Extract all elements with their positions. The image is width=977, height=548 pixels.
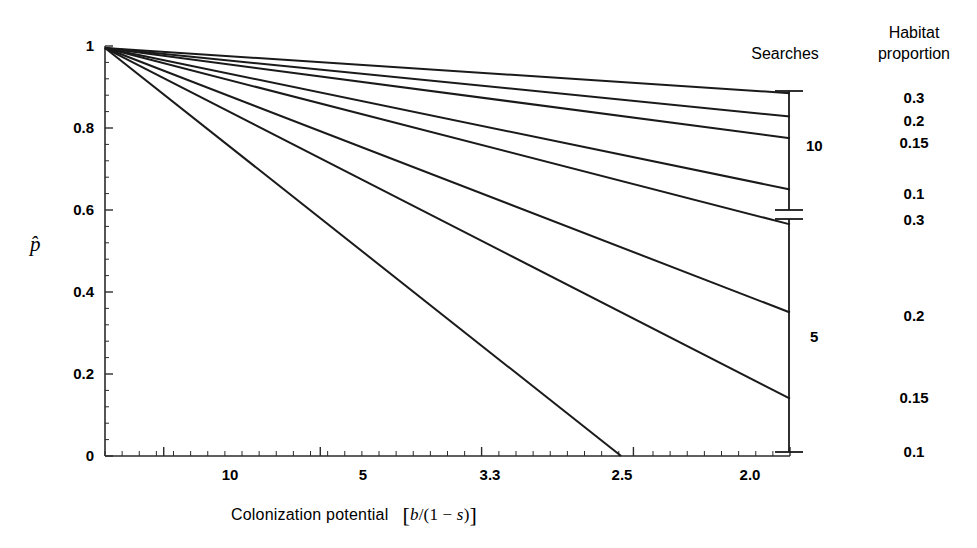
x-axis-title-expr: /(1 − — [419, 505, 457, 524]
x-axis-title-var-b: b — [410, 505, 419, 524]
x-tick-label-2.0: 2.0 — [720, 466, 780, 483]
y-tick-label-0.4: 0.4 — [46, 283, 94, 300]
series-line-6 — [105, 48, 790, 399]
y-axis-title: p̂ — [30, 232, 41, 257]
habitat-heading-line1: Habitat — [855, 24, 973, 42]
series-line-1 — [105, 48, 790, 116]
x-tick-label-10: 10 — [200, 466, 260, 483]
x-axis-title-var-s: s — [457, 505, 464, 524]
series-line-7 — [105, 48, 621, 456]
habitat-value-7: 0.1 — [855, 443, 973, 460]
habitat-value-4: 0.3 — [855, 211, 973, 228]
x-axis-title-bracket-close: ] — [470, 502, 478, 527]
x-tick-label-3.3: 3.3 — [460, 466, 520, 483]
bracket-label-5: 5 — [810, 328, 818, 345]
series-line-5 — [105, 48, 790, 312]
x-axis-title-bracket-open: [ — [402, 502, 410, 527]
habitat-value-3: 0.1 — [855, 185, 973, 202]
y-tick-label-1: 1 — [46, 37, 94, 54]
series-line-2 — [105, 48, 790, 138]
y-tick-label-0.6: 0.6 — [46, 201, 94, 218]
y-tick-label-0.2: 0.2 — [46, 365, 94, 382]
searches-heading: Searches — [725, 45, 845, 63]
series-line-3 — [105, 48, 790, 189]
habitat-value-5: 0.2 — [855, 307, 973, 324]
bracket-label-10: 10 — [806, 137, 823, 154]
x-tick-label-5: 5 — [333, 466, 393, 483]
x-axis-title-expr-close: ) — [464, 505, 470, 524]
data-series-lines — [105, 48, 790, 456]
y-axis-ticks — [105, 46, 113, 456]
series-line-4 — [105, 48, 790, 224]
habitat-value-6: 0.15 — [855, 389, 973, 406]
habitat-value-1: 0.2 — [855, 112, 973, 129]
figure-canvas: 1 0.8 0.6 0.4 0.2 0 p̂ 10 5 3.3 2.5 2.0 … — [0, 0, 977, 548]
series-line-0 — [105, 48, 790, 93]
bracket-searches-10 — [775, 91, 803, 210]
habitat-value-0: 0.3 — [855, 89, 973, 106]
x-axis-title: Colonization potential[b/(1 − s)] — [231, 505, 477, 525]
habitat-heading-line2: proportion — [855, 45, 973, 63]
axis-lines — [105, 46, 790, 456]
y-tick-label-0.8: 0.8 — [46, 119, 94, 136]
x-tick-label-2.5: 2.5 — [592, 466, 652, 483]
x-axis-ticks — [105, 447, 790, 456]
searches-brackets — [775, 91, 803, 452]
habitat-value-2: 0.15 — [855, 134, 973, 151]
x-axis-title-text: Colonization potential — [231, 506, 388, 523]
y-tick-label-0: 0 — [46, 447, 94, 464]
bracket-searches-5 — [775, 219, 803, 452]
